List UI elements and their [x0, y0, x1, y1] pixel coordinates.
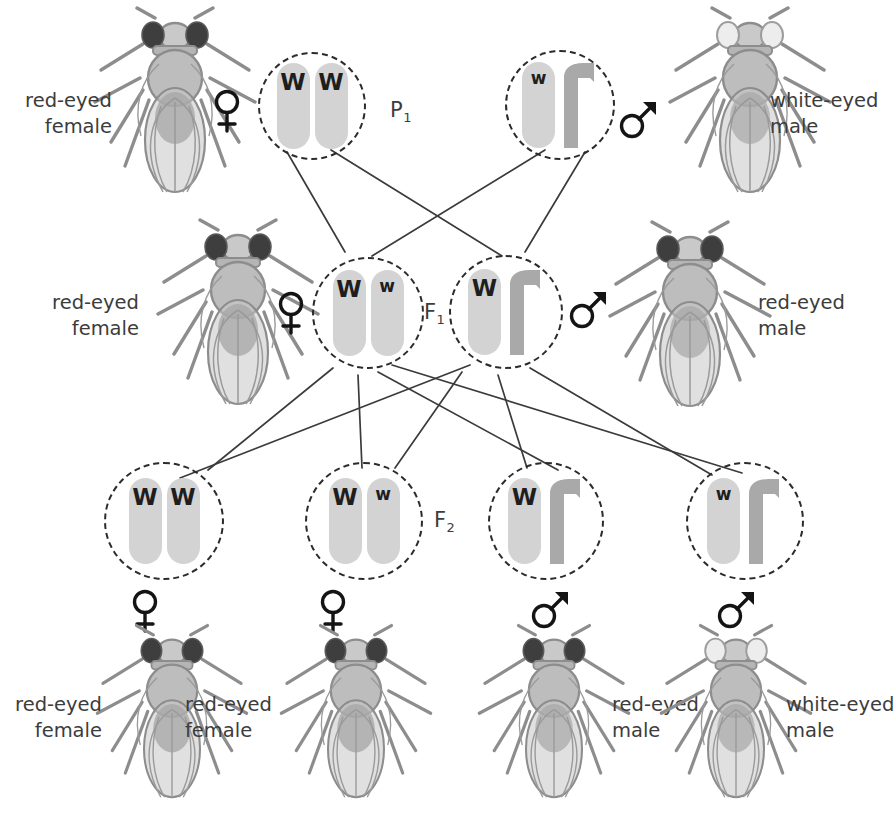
genotype-circle-f2-3[interactable]: W — [488, 462, 604, 580]
generation-label-f1: F1 — [424, 300, 445, 327]
phenotype-line-1: red-eyed — [185, 692, 285, 718]
allele-label: W — [472, 277, 497, 300]
line-f1male-to-f2-2 — [395, 372, 462, 468]
phenotype-f2-1: red-eyed female — [2, 692, 102, 745]
allele-label: w — [531, 70, 547, 87]
y-chromosome — [506, 269, 544, 355]
phenotype-line-2: male — [770, 114, 885, 140]
x-chromosome: W — [468, 269, 501, 355]
chromosome-pair: W W — [129, 478, 200, 564]
line-p1female-to-f1male — [331, 150, 502, 256]
line-p1male-to-f1male — [525, 152, 585, 252]
fly-f2-2 — [272, 622, 440, 812]
generation-label-p1: P1 — [390, 98, 412, 125]
x-chromosome: w — [367, 478, 400, 564]
genotype-circle-f1-female[interactable]: W w — [312, 257, 424, 369]
allele-label: W — [170, 486, 195, 509]
x-chromosome: w — [522, 62, 555, 148]
phenotype-line-2: female — [2, 718, 102, 744]
x-chromosome: W — [315, 63, 348, 149]
chromosome-pair: W — [508, 478, 584, 564]
chromosome-pair: W — [468, 269, 544, 355]
x-chromosome: W — [508, 478, 541, 564]
x-chromosome: w — [371, 270, 404, 356]
chromosome-pair: w — [522, 62, 598, 148]
allele-label: w — [375, 486, 391, 503]
phenotype-f2-2: red-eyed female — [185, 692, 285, 745]
genotype-circle-f2-4[interactable]: w — [686, 462, 804, 580]
chromosome-pair: W w — [333, 270, 404, 356]
phenotype-line-1: red-eyed — [758, 290, 878, 316]
x-chromosome: W — [129, 478, 162, 564]
phenotype-line-1: white-eyed — [770, 88, 885, 114]
sex-symbol-venus-p1-female — [212, 88, 242, 134]
generation-label-f2: F2 — [434, 508, 455, 535]
phenotype-line-2: female — [185, 718, 285, 744]
genotype-circle-p1-male[interactable]: w — [505, 50, 615, 160]
phenotype-line-2: male — [758, 316, 878, 342]
allele-label: W — [332, 486, 357, 509]
y-chromosome — [560, 62, 598, 148]
phenotype-line-2: female — [12, 114, 112, 140]
phenotype-line-2: male — [786, 718, 896, 744]
genotype-circle-f2-2[interactable]: W w — [305, 462, 423, 580]
line-f1female-to-f2-2 — [358, 375, 362, 468]
line-f1male-to-f2-3 — [498, 375, 527, 468]
allele-label: W — [132, 486, 157, 509]
chromosome-pair: W W — [277, 63, 348, 149]
generation-subscript: 1 — [403, 110, 412, 125]
x-chromosome: W — [329, 478, 362, 564]
phenotype-line-1: white-eyed — [786, 692, 896, 718]
phenotype-line-1: red-eyed — [2, 692, 102, 718]
allele-label: w — [379, 278, 395, 295]
sex-symbol-mars-p1-male — [618, 98, 660, 140]
phenotype-f1-male: red-eyed male — [758, 290, 878, 343]
generation-subscript: 1 — [437, 312, 446, 327]
phenotype-p1-female: red-eyed female — [12, 88, 112, 141]
allele-label: W — [318, 71, 343, 94]
phenotype-line-1: red-eyed — [12, 88, 112, 114]
fly-f1-male — [600, 220, 780, 420]
allele-label: W — [280, 71, 305, 94]
chromosome-pair: W w — [329, 478, 400, 564]
genotype-circle-p1-female[interactable]: W W — [258, 52, 366, 160]
phenotype-f1-female: red-eyed female — [14, 290, 139, 343]
x-chromosome: w — [707, 478, 740, 564]
x-chromosome: W — [333, 270, 366, 356]
x-chromosome: W — [167, 478, 200, 564]
phenotype-line-1: red-eyed — [14, 290, 139, 316]
allele-label: W — [336, 278, 361, 301]
generation-letter: P — [390, 98, 403, 122]
genotype-circle-f1-male[interactable]: W — [449, 255, 563, 369]
sex-symbol-venus-f1-female — [276, 290, 306, 336]
allele-label: W — [512, 486, 537, 509]
genotype-circle-f2-1[interactable]: W W — [104, 462, 224, 580]
chromosome-pair: w — [707, 478, 783, 564]
allele-label: w — [716, 486, 732, 503]
y-chromosome — [546, 478, 584, 564]
line-p1male-to-f1female — [372, 150, 545, 256]
generation-subscript: 2 — [447, 520, 456, 535]
y-chromosome — [745, 478, 783, 564]
generation-letter: F — [424, 300, 437, 324]
phenotype-f2-4: white-eyed male — [786, 692, 896, 745]
generation-letter: F — [434, 508, 447, 532]
phenotype-p1-male: white-eyed male — [770, 88, 885, 141]
phenotype-line-2: female — [14, 316, 139, 342]
x-chromosome: W — [277, 63, 310, 149]
line-f1female-to-f2-3 — [378, 372, 558, 470]
